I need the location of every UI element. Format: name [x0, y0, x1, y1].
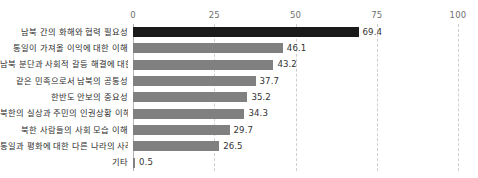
category-label: 기타 — [0, 157, 128, 168]
bar — [133, 109, 244, 119]
x-tick-label: 75 — [371, 9, 382, 21]
bar-value-label: 29.7 — [234, 125, 254, 136]
category-label: 북한의 실상과 주민의 인권상황 이해 — [0, 108, 128, 119]
bar-and-value: 29.7 — [133, 125, 253, 135]
bar-value-label: 35.2 — [251, 92, 271, 103]
bar-rows: 남북 간의 화해와 협력 필요성69.4통일이 가져올 이익에 대한 이해46.… — [0, 24, 478, 171]
bar-and-value: 0.5 — [133, 158, 153, 168]
bar-value-label: 46.1 — [287, 43, 307, 54]
category-label: 통일이 가져올 이익에 대한 이해 — [0, 43, 128, 54]
bar-row: 남북 간의 화해와 협력 필요성69.4 — [0, 24, 478, 40]
bar-row: 북한의 실상과 주민의 인권상황 이해34.3 — [0, 106, 478, 122]
bar-row: 통일이 가져올 이익에 대한 이해46.1 — [0, 40, 478, 56]
bar-and-value: 46.1 — [133, 43, 306, 53]
bar-and-value: 35.2 — [133, 92, 271, 102]
bar — [133, 76, 256, 86]
bar-value-label: 37.7 — [260, 76, 280, 87]
horizontal-bar-chart: 0255075100 남북 간의 화해와 협력 필요성69.4통일이 가져올 이… — [0, 0, 478, 178]
bar-and-value: 34.3 — [133, 109, 268, 119]
bar-and-value: 69.4 — [133, 27, 382, 37]
bar-row: 남북 분단과 사회적 갈등 해결에 대한 이해43.2 — [0, 57, 478, 73]
bar-value-label: 34.3 — [248, 108, 268, 119]
category-label: 남북 분단과 사회적 갈등 해결에 대한 이해 — [0, 59, 128, 70]
bar-value-label: 0.5 — [139, 157, 153, 168]
bar — [133, 60, 273, 70]
category-label: 북한 사람들의 사회 모습 이해 — [0, 125, 128, 136]
bar — [133, 92, 247, 102]
bar-row: 북한 사람들의 사회 모습 이해29.7 — [0, 122, 478, 138]
bar-value-label: 69.4 — [363, 27, 383, 38]
bar-row: 같은 민족으로서 남북의 공통성37.7 — [0, 73, 478, 89]
bar-and-value: 37.7 — [133, 76, 279, 86]
bar-row: 기타0.5 — [0, 155, 478, 171]
x-tick-label: 0 — [130, 9, 136, 21]
category-label: 한반도 안보의 중요성 — [0, 92, 128, 103]
bar-value-label: 26.5 — [223, 141, 243, 152]
bar-value-label: 43.2 — [277, 59, 297, 70]
x-tick-label: 25 — [209, 9, 220, 21]
bar — [133, 125, 230, 135]
bar — [133, 43, 283, 53]
bar-and-value: 43.2 — [133, 60, 297, 70]
bar-and-value: 26.5 — [133, 141, 243, 151]
x-tick-label: 50 — [290, 9, 301, 21]
bar-row: 통일과 평화에 대한 다른 나라의 사례26.5 — [0, 138, 478, 154]
x-tick-label: 100 — [450, 9, 467, 21]
bar-row: 한반도 안보의 중요성35.2 — [0, 89, 478, 105]
category-label: 남북 간의 화해와 협력 필요성 — [0, 27, 128, 38]
category-label: 통일과 평화에 대한 다른 나라의 사례 — [0, 141, 128, 152]
category-label: 같은 민족으로서 남북의 공통성 — [0, 76, 128, 87]
bar — [133, 158, 135, 168]
bar — [133, 141, 219, 151]
x-axis-tick-labels: 0255075100 — [0, 9, 478, 23]
bar — [133, 27, 359, 37]
